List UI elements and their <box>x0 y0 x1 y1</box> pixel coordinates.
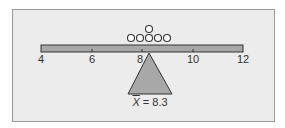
fulcrum-triangle <box>128 53 172 94</box>
data-dot <box>128 35 135 42</box>
data-dot <box>146 26 153 33</box>
mean-value: = 8.3 <box>140 96 168 108</box>
tick-label-10: 10 <box>187 53 199 65</box>
data-dot <box>137 35 144 42</box>
tick-label-6: 6 <box>89 53 95 65</box>
data-dot <box>164 35 171 42</box>
data-dots <box>128 26 171 42</box>
tick-label-4: 4 <box>38 53 44 65</box>
mean-label: X = 8.3 <box>132 96 167 108</box>
tick-label-8: 8 <box>137 53 143 65</box>
data-dot <box>155 35 162 42</box>
data-dot <box>146 35 153 42</box>
tick-label-12: 12 <box>237 53 249 65</box>
